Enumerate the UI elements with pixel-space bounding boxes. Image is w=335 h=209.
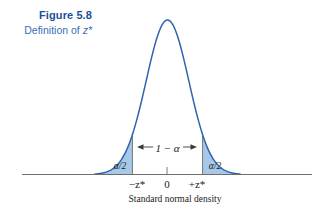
normal-distribution-plot: 1 − α α/2 α/2 −z* 0 +z* Standard normal … [0, 0, 335, 209]
left-tail-label: α/2 [114, 161, 127, 171]
figure-container: Figure 5.8 Definition of z* 1 − α α/2 α/… [0, 0, 335, 209]
x-axis-title: Standard normal density [129, 194, 222, 204]
x-tick-label-right: +z* [189, 178, 206, 190]
confidence-level-label: 1 − α [155, 142, 179, 154]
right-tail-label: α/2 [209, 161, 222, 171]
x-tick-label-center: 0 [164, 178, 170, 190]
x-tick-label-left: −z* [129, 178, 146, 190]
